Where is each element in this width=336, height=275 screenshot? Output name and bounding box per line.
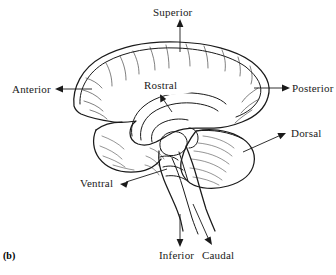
- temporal-lobe: [94, 122, 161, 172]
- label-caudal: Caudal: [202, 249, 234, 261]
- dorsal-arrow: [243, 133, 286, 152]
- label-rostral: Rostral: [144, 79, 177, 91]
- rostral-arrow: [160, 94, 172, 112]
- figure-caption: (b): [3, 250, 15, 261]
- corpus-callosum: [132, 93, 227, 142]
- label-superior: Superior: [153, 6, 192, 18]
- superior-arrow: [177, 19, 184, 52]
- cerebellum: [181, 130, 255, 189]
- label-posterior: Posterior: [292, 82, 334, 94]
- figure-brain-orientation: Superior Anterior Posterior Dorsal Ventr…: [0, 0, 336, 275]
- caudal-arrow: [193, 204, 212, 245]
- label-inferior: Inferior: [159, 249, 194, 261]
- label-anterior: Anterior: [12, 83, 51, 95]
- brain-diagram-svg: [0, 0, 336, 275]
- label-ventral: Ventral: [80, 177, 113, 189]
- label-dorsal: Dorsal: [291, 127, 322, 139]
- posterior-arrow: [254, 85, 290, 92]
- thalamus-midbrain: [160, 128, 198, 156]
